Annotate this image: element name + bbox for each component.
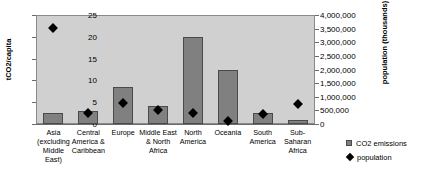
x-axis-category-label-line: Middle East <box>139 128 178 137</box>
y-axis-right-tick-mark <box>315 56 319 57</box>
y-axis-right-tick-label: 3,500,000 <box>320 24 380 33</box>
x-axis-category-label-line: America <box>243 137 282 146</box>
y-axis-right-tick-label: 1,000,000 <box>320 92 380 101</box>
y-axis-right-tick-label: 0 <box>320 120 380 129</box>
y-axis-left-title: tCO2/capita <box>4 28 13 92</box>
x-axis-category-label: Middle East& NorthAfrica <box>139 128 178 155</box>
x-axis-category-label-line: & North <box>139 137 178 146</box>
x-axis-category-label-line: Sub- <box>278 128 317 137</box>
bar-co2-emissions <box>43 113 63 124</box>
x-axis-category-label-line: Middle East) <box>34 146 73 164</box>
y-axis-left-tick-mark <box>32 15 36 16</box>
y-axis-right-tick-label: 500,000 <box>320 106 380 115</box>
y-axis-right-tick-label: 3,000,000 <box>320 38 380 47</box>
y-axis-left-tick-label: 15 <box>57 54 97 63</box>
x-axis-category-label-line: (excluding <box>34 137 73 146</box>
co2-emissions-swatch-icon <box>346 140 352 146</box>
x-axis-category-label-line: Asia <box>34 128 73 137</box>
y-axis-right-tick-mark <box>315 97 319 98</box>
x-axis-category-label-line: Africa <box>278 146 317 155</box>
x-axis-category-label-line: Europe <box>104 128 143 137</box>
chart-legend: CO2 emissions population <box>346 136 407 164</box>
x-axis-category-label: NorthAmerica <box>174 128 213 146</box>
y-axis-right-tick-label: 1,500,000 <box>320 79 380 88</box>
y-axis-left-tick-mark <box>32 102 36 103</box>
y-axis-right-title: population (thousands) <box>380 0 389 91</box>
y-axis-left-tick-label: 25 <box>57 11 97 20</box>
x-axis-category-label: CentralAmerica &Caribbean <box>69 128 108 155</box>
x-axis-category-label-line: America <box>174 137 213 146</box>
y-axis-left-tick-mark <box>32 37 36 38</box>
y-axis-right-tick-mark <box>315 70 319 71</box>
y-axis-left-tick-mark <box>32 80 36 81</box>
y-axis-left-tick-mark <box>32 124 36 125</box>
x-axis-category-label: Europe <box>104 128 143 137</box>
y-axis-right-tick-mark <box>315 83 319 84</box>
x-axis-category-label-line: South <box>243 128 282 137</box>
x-axis-category-label-line: Oceania <box>208 128 247 137</box>
y-axis-right-tick-label: 2,500,000 <box>320 51 380 60</box>
x-axis-category-label-line: Central <box>69 128 108 137</box>
y-axis-right-tick-mark <box>315 29 319 30</box>
y-axis-left-tick-mark <box>32 59 36 60</box>
legend-item-population: population <box>346 150 407 164</box>
y-axis-right-tick-mark <box>315 42 319 43</box>
y-axis-left-tick-label: 20 <box>57 32 97 41</box>
x-axis-category-label: SouthAmerica <box>243 128 282 146</box>
legend-item-co2-emissions: CO2 emissions <box>346 136 407 150</box>
x-axis-category-label: Sub-SaharanAfrica <box>278 128 317 155</box>
y-axis-left-tick-label: 10 <box>57 76 97 85</box>
y-axis-right-tick-mark <box>315 110 319 111</box>
y-axis-right-tick-mark <box>315 124 319 125</box>
x-axis-category-label-line: Caribbean <box>69 146 108 155</box>
chart-container: tCO2/capita population (thousands) 05101… <box>0 0 439 177</box>
y-axis-right-tick-mark <box>315 15 319 16</box>
y-axis-right-tick-label: 4,000,000 <box>320 11 380 20</box>
population-diamond-icon <box>346 153 354 161</box>
x-axis-category-label-line: Africa <box>139 146 178 155</box>
legend-label-co2-emissions: CO2 emissions <box>356 139 407 148</box>
bar-co2-emissions <box>288 120 308 124</box>
legend-label-population: population <box>357 153 392 162</box>
x-axis-category-label: Oceania <box>208 128 247 137</box>
x-axis-category-label: Asia(excludingMiddle East) <box>34 128 73 164</box>
x-axis-category-label-line: America & <box>69 137 108 146</box>
x-axis-category-label-line: North <box>174 128 213 137</box>
x-axis-category-label-line: Saharan <box>278 137 317 146</box>
y-axis-right-tick-label: 2,000,000 <box>320 65 380 74</box>
y-axis-left-tick-label: 5 <box>57 98 97 107</box>
